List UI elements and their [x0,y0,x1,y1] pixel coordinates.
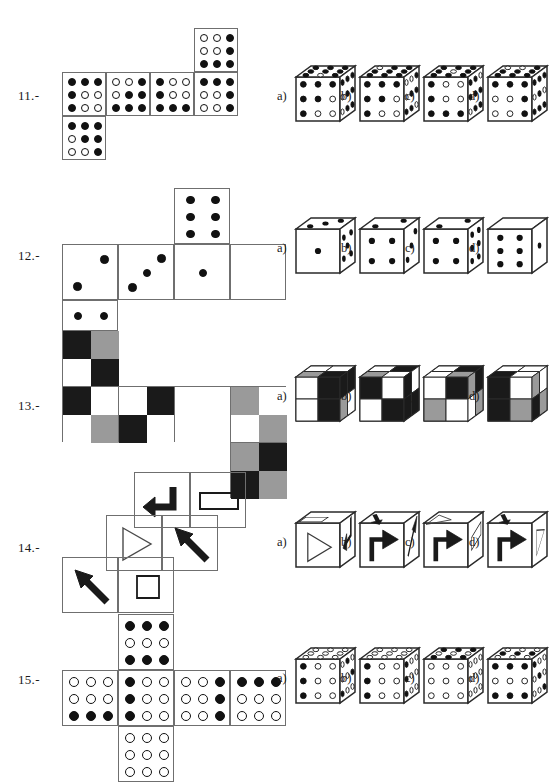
option-cube[interactable]: d) [488,648,549,706]
option-label: d) [469,671,479,686]
option-label: b) [341,671,351,686]
option-label: c) [405,671,415,686]
cube-dots [488,648,550,706]
option-label: a) [277,671,287,686]
